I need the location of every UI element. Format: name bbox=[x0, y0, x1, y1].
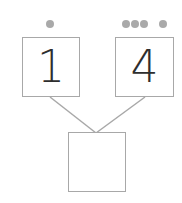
count-dot bbox=[159, 20, 167, 28]
part-value: 1 bbox=[37, 45, 65, 89]
count-dot bbox=[140, 20, 148, 28]
count-dot bbox=[46, 20, 54, 28]
part-box-left: 1 bbox=[22, 37, 80, 97]
count-dot bbox=[122, 20, 130, 28]
part-box-right: 4 bbox=[115, 37, 174, 97]
whole-box[interactable] bbox=[68, 132, 126, 192]
count-dot bbox=[131, 20, 139, 28]
part-value: 4 bbox=[131, 45, 159, 89]
